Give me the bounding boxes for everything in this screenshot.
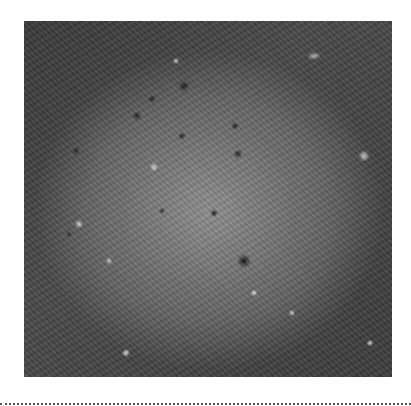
planetary-surface-image: Grayscale orbital image of a large impac… bbox=[24, 21, 392, 377]
dotted-separator bbox=[0, 403, 411, 405]
